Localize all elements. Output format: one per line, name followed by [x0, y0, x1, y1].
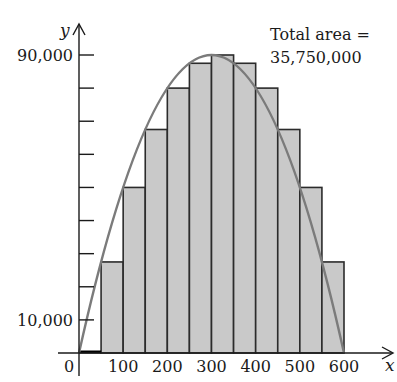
chart-canvas: 0100200300400500600 90,00010,000 x y Tot…	[0, 0, 397, 382]
x-tick-labels: 0100200300400500600	[64, 357, 359, 376]
x-tick-label: 400	[240, 357, 271, 376]
bar	[123, 187, 145, 353]
bar	[167, 88, 189, 353]
bar	[101, 262, 123, 353]
bar	[212, 55, 234, 353]
y-tick-label: 10,000	[17, 311, 73, 330]
y-axis-ticks	[79, 55, 94, 320]
y-tick-label: 90,000	[17, 46, 73, 65]
x-tick-label: 500	[285, 357, 316, 376]
y-tick-labels: 90,00010,000	[17, 46, 73, 330]
bar	[300, 187, 322, 353]
total-area-value: 35,750,000	[270, 48, 362, 67]
bar	[256, 88, 278, 353]
total-area-label: Total area =	[270, 25, 370, 44]
riemann-sum-chart: 0100200300400500600 90,00010,000 x y Tot…	[0, 0, 397, 382]
y-axis-label: y	[59, 20, 70, 40]
bar	[145, 130, 167, 354]
bar	[189, 63, 211, 353]
bar	[234, 63, 256, 353]
x-tick-label: 0	[64, 357, 74, 376]
x-tick-label: 100	[108, 357, 139, 376]
x-tick-label: 300	[196, 357, 227, 376]
x-tick-label: 600	[329, 357, 360, 376]
bars-group	[101, 55, 344, 353]
x-axis-label: x	[385, 355, 395, 375]
bar	[278, 130, 300, 354]
x-tick-label: 200	[152, 357, 183, 376]
